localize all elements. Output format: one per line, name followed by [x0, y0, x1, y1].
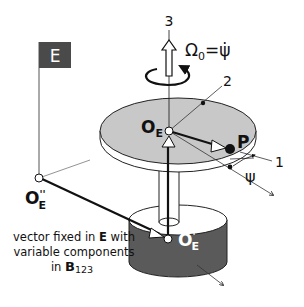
point-oe — [165, 127, 173, 135]
angular-velocity-arrow — [162, 40, 176, 76]
annotation-text: vector fixed in E with variable componen… — [13, 230, 135, 275]
flag-label: E — [50, 46, 61, 66]
disk — [100, 98, 256, 172]
frame-e-axis-line — [39, 160, 90, 178]
axis-2-dot — [201, 101, 205, 105]
axis-3-label: 3 — [165, 13, 174, 29]
axis-2-label: 2 — [223, 73, 232, 89]
frame-e-flag: E — [39, 42, 71, 178]
svg-text:in B123: in B123 — [51, 259, 93, 275]
psi-dot — [228, 165, 233, 170]
point-oe-double-prime-label: O''E — [25, 188, 46, 212]
rotating-disk-diagram: E 3 Ω0=ψ̇ 2 1 ψ — [0, 0, 304, 307]
point-p-label: P — [237, 132, 249, 152]
svg-text:variable components: variable components — [13, 245, 134, 259]
vector-oe-double-prime-to-oe-prime — [40, 178, 160, 234]
svg-text:Ω0=ψ̇: Ω0=ψ̇ — [185, 40, 230, 63]
point-p — [225, 144, 235, 154]
axis-1-label: 1 — [275, 154, 284, 170]
psi-label: ψ — [245, 167, 256, 186]
svg-text:vector fixed in E with: vector fixed in E with — [13, 230, 135, 244]
point-oe-prime — [164, 235, 172, 243]
angular-velocity-label: Ω0=ψ̇ — [185, 40, 230, 63]
point-oe-double-prime — [35, 174, 43, 182]
